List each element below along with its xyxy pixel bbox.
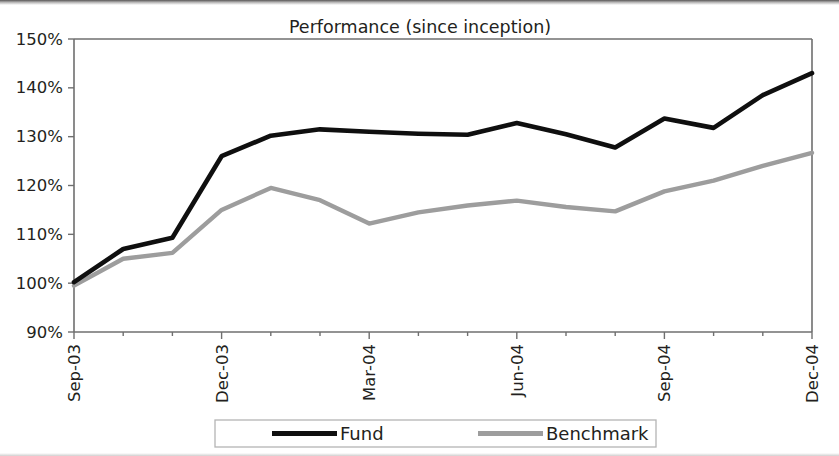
y-tick-label: 100% (16, 274, 63, 293)
x-tick-label: Dec-04 (803, 344, 822, 403)
y-tick-label: 150% (16, 30, 63, 49)
x-tick-label: Sep-03 (65, 344, 84, 402)
x-tick-label: Sep-04 (655, 344, 674, 402)
x-axis-ticks: Sep-03Dec-03Mar-04Jun-04Sep-04Dec-04 (65, 332, 822, 403)
chart-container: 90%100%110%120%130%140%150% Sep-03Dec-03… (0, 0, 839, 456)
x-tick-label: Dec-03 (213, 344, 232, 403)
legend-label-benchmark: Benchmark (546, 423, 649, 444)
chart-legend: Fund Benchmark (215, 420, 656, 447)
series-group (74, 73, 812, 285)
y-tick-label: 140% (16, 78, 63, 97)
y-axis-ticks: 90%100%110%120%130%140%150% (16, 30, 74, 342)
y-tick-label: 130% (16, 127, 63, 146)
y-tick-label: 120% (16, 176, 63, 195)
series-line-fund (74, 73, 812, 282)
chart-title: Performance (since inception) (289, 17, 551, 37)
legend-label-fund: Fund (340, 423, 384, 444)
x-tick-label: Jun-04 (508, 344, 527, 398)
y-tick-label: 90% (26, 323, 63, 342)
performance-line-chart: 90%100%110%120%130%140%150% Sep-03Dec-03… (0, 0, 839, 456)
x-tick-label: Mar-04 (360, 344, 379, 401)
y-tick-label: 110% (16, 225, 63, 244)
